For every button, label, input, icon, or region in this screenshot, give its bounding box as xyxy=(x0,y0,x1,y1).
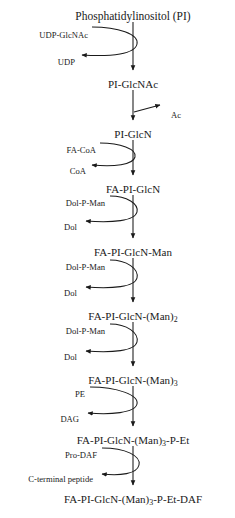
pathway-node-faplglcn: FA-PI-GlcN xyxy=(106,183,160,195)
curve-step-1 xyxy=(82,27,137,56)
step-4-product-label: Dol xyxy=(64,222,77,232)
step-7-substrate-label: PE xyxy=(75,389,85,399)
pathway-node-man2: FA-PI-GlcN-(Man)2 xyxy=(88,310,177,324)
step-1-substrate-label: UDP-GlcNAc xyxy=(39,30,88,40)
pathway-node-final: FA-PI-GlcN-(Man)3-P-Et-DAF xyxy=(64,493,202,507)
branch-step-2-ac xyxy=(134,105,160,112)
step-6-substrate-label: Dol-P-Man xyxy=(66,326,105,336)
curve-step-3 xyxy=(92,143,135,166)
step-4-substrate-label: Dol-P-Man xyxy=(66,198,105,208)
pathway-node-piglcnac: PI-GlcNAc xyxy=(108,78,158,90)
step-6-product-label: Dol xyxy=(64,352,77,362)
step-8-product-label: C-terminal peptide xyxy=(28,474,93,484)
pathway-node-pi: Phosphatidylinositol (PI) xyxy=(75,10,190,22)
step-7-product-label: DAG xyxy=(60,414,79,424)
step-5-product-label: Dol xyxy=(64,288,77,298)
pathway-node-manpet: FA-PI-GlcN-(Man)3-P-Et xyxy=(77,434,190,448)
step-1-product-label: UDP xyxy=(58,57,75,67)
pathway-node-piglcn: PI-GlcN xyxy=(114,128,151,140)
step-5-substrate-label: Dol-P-Man xyxy=(66,262,105,272)
curve-step-7 xyxy=(88,387,137,414)
curve-step-8 xyxy=(102,448,139,475)
step-3-substrate-label: FA-CoA xyxy=(67,145,96,155)
pathway-node-man1: FA-PI-GlcN-Man xyxy=(94,246,172,258)
step-2-product-label: Ac xyxy=(171,110,181,120)
pathway-node-man3: FA-PI-GlcN-(Man)3 xyxy=(88,374,177,388)
step-3-product-label: CoA xyxy=(70,166,86,176)
step-8-substrate-label: Pro-DAF xyxy=(65,450,97,460)
